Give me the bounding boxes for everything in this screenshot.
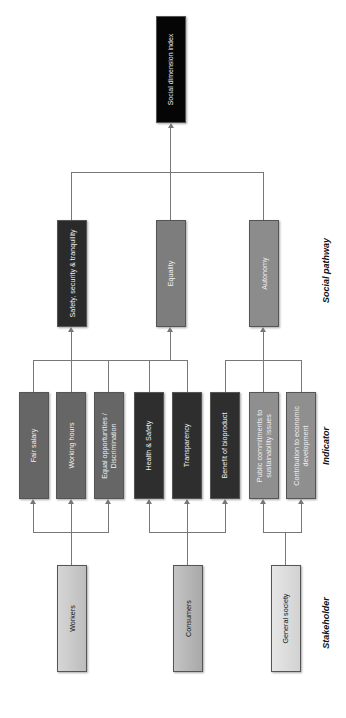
connector-autonomy-horizontal — [225, 360, 302, 361]
connector-benefit-up — [225, 360, 226, 392]
indicator-public-commitments-line2: sustainability issues — [264, 409, 273, 481]
connector-consumers-benefit — [225, 501, 226, 533]
pathway-equality-box: Equality — [156, 220, 186, 327]
indicator-health-safety-box: Health & Safety — [134, 392, 164, 499]
connector-society-public — [263, 501, 264, 533]
connector-workers-equal-opps — [108, 501, 109, 533]
stakeholder-workers-box: Workers — [57, 565, 87, 672]
connector-equal-opps-up — [108, 360, 109, 392]
indicator-economic-development-line2: development — [301, 406, 310, 486]
indicator-working-hours-box: Working hours — [56, 392, 86, 499]
connector-equality-horizontal — [33, 360, 188, 361]
indicator-economic-development-label: Contribution to economic development — [292, 406, 310, 486]
indicator-benefit-bioproduct-box: Benefit of bioproduct — [210, 392, 240, 499]
indicator-economic-development-line1: Contribution to economic — [292, 406, 301, 486]
connector-society-horizontal — [263, 532, 302, 533]
stakeholder-general-society-box: General society — [271, 565, 301, 672]
indicator-equal-opportunities-line1: Equal opportunities / — [100, 413, 109, 479]
connector-contribution-up — [301, 360, 302, 392]
indicator-public-commitments-box: Public commitments to sustainability iss… — [249, 392, 279, 499]
connector-transparency-up — [187, 360, 188, 392]
indicator-public-commitments-label: Public commitments to sustainability iss… — [255, 409, 273, 481]
connector-workers-fair-salary — [33, 501, 34, 533]
social-dimension-index-box: Social dimension index — [156, 16, 186, 123]
indicator-public-commitments-line1: Public commitments to — [255, 409, 264, 481]
connector-equality-vertical — [170, 329, 171, 360]
stakeholder-consumers-box: Consumers — [173, 565, 203, 672]
indicator-equal-opportunities-label: Equal opportunities / Discrimination — [100, 413, 118, 479]
connector-fair-salary-up — [33, 360, 34, 392]
connector-society-vertical — [285, 532, 286, 565]
pathway-autonomy-box: Autonomy — [249, 220, 279, 327]
indicator-transparency-box: Transparency — [172, 392, 202, 499]
pathway-safety-label: Safety, security & tranquility — [68, 229, 77, 317]
pathway-safety-box: Safety, security & tranquility — [57, 220, 87, 327]
indicator-health-safety-label: Health & Safety — [145, 421, 154, 471]
connector-society-contribution — [301, 501, 302, 533]
connector-health-up — [149, 360, 150, 392]
indicator-equal-opportunities-box: Equal opportunities / Discrimination — [94, 392, 124, 499]
pathway-equality-label: Equality — [166, 261, 175, 287]
connector-autonomy-up — [263, 172, 264, 220]
indicator-economic-development-box: Contribution to economic development — [286, 392, 316, 499]
stakeholder-workers-label: Workers — [68, 605, 77, 632]
pathway-autonomy-label: Autonomy — [260, 257, 269, 289]
connector-workers-working-hours — [71, 501, 72, 565]
indicator-fair-salary-label: Fair salary — [30, 429, 39, 463]
connector-safety-up — [71, 172, 72, 220]
level-label-stakeholder: Stakeholder — [321, 593, 331, 653]
level-label-social-pathway: Social pathway — [321, 243, 331, 303]
indicator-working-hours-label: Working hours — [67, 422, 76, 468]
connector-consumers-transparency — [187, 501, 188, 565]
arrow-to-index — [168, 123, 174, 128]
stakeholder-consumers-label: Consumers — [184, 600, 193, 637]
indicator-transparency-label: Transparency — [183, 424, 192, 468]
connector-pathways-horizontal — [71, 172, 264, 173]
indicator-equal-opportunities-line2: Discrimination — [109, 413, 118, 479]
connector-consumers-health — [149, 501, 150, 533]
stakeholder-general-society-label: General society — [282, 594, 291, 644]
indicator-benefit-bioproduct-label: Benefit of bioproduct — [221, 413, 230, 479]
level-label-indicator: Indicator — [321, 416, 331, 476]
indicator-fair-salary-box: Fair salary — [19, 392, 49, 499]
social-dimension-index-label: Social dimension index — [167, 34, 176, 106]
